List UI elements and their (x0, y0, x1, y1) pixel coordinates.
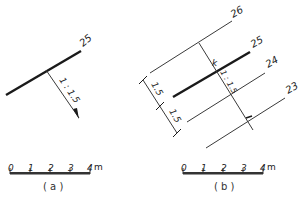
scale-tick-2: 2 (48, 163, 54, 173)
contour-line-26 (150, 21, 232, 73)
scale-tick-1: 1 (28, 163, 34, 173)
scale-tick-4: 4 (87, 163, 93, 173)
scale-unit-b: m (267, 162, 276, 172)
scale-tick-3: 3 (68, 163, 74, 173)
contour-label-25-a: 25 (77, 32, 94, 49)
point-label-k: k (212, 58, 218, 68)
scale-tick-0: 0 (8, 163, 14, 173)
scale-tick-0-b: 0 (181, 163, 187, 173)
scale-unit: m (94, 162, 103, 172)
arrow-head-icon (73, 108, 79, 119)
contour-label-23: 23 (284, 80, 299, 96)
scale-tick-4-b: 4 (260, 163, 266, 173)
scale-tick-3-b: 3 (241, 163, 247, 173)
panel-b: 26 25 24 23 k 1 : 1.5 1.5 1.5 (139, 4, 298, 192)
spacing-dimension: 1.5 1.5 (139, 76, 183, 137)
contour-line-23 (206, 98, 285, 148)
slope-label-a: 1 : 1.5 (57, 76, 82, 106)
caption-a: ( a ) (43, 181, 63, 192)
caption-b: ( b ) (214, 181, 235, 192)
scale-bar-a: 0 1 2 3 4 m (8, 162, 103, 175)
scale-tick-2-b: 2 (221, 163, 227, 173)
panel-a: 25 1 : 1.5 0 1 2 3 4 m ( a ) (6, 32, 103, 192)
contour-label-24: 24 (264, 54, 281, 70)
contour-label-26: 26 (229, 4, 246, 20)
scale-tick-1-b: 1 (201, 163, 207, 173)
scale-bar-b: 0 1 2 3 4 m (181, 162, 276, 175)
contour-label-25-b: 25 (249, 34, 266, 50)
spacing-label-1: 1.5 (149, 80, 165, 98)
